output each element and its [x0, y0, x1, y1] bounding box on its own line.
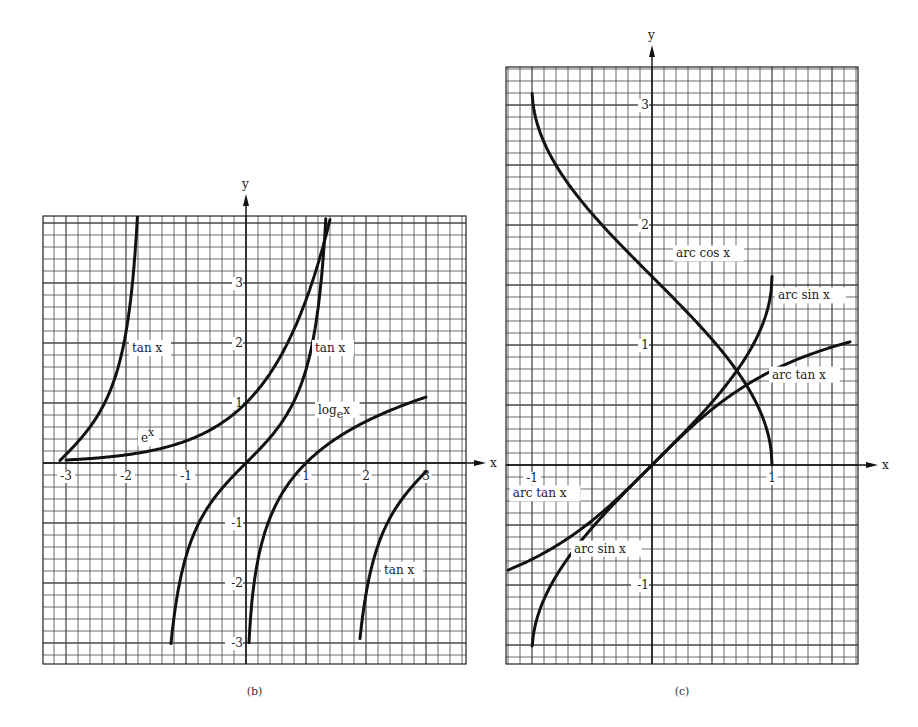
y-axis-label: y [241, 177, 249, 191]
x-axis-arrow-icon [474, 460, 486, 466]
curve-annotation: logex [318, 403, 350, 421]
x-tick-label: 1 [768, 471, 776, 485]
x-axis-arrow-icon [866, 462, 878, 468]
figure-caption: (c) [675, 685, 690, 698]
y-tick-label: 1 [641, 338, 649, 352]
curve-annotation: arc tan x [772, 368, 826, 382]
chart-c-inverse-trig: yx-11321-1arc cos xarc sin xarc tan xarc… [506, 28, 889, 698]
y-tick-label: -1 [637, 578, 649, 592]
curve-annotation: arc cos x [676, 246, 730, 260]
x-tick-label: -1 [180, 469, 192, 483]
x-tick-label: -3 [60, 469, 72, 483]
curve-tan-x [360, 472, 426, 639]
curve-annotation: tan x [132, 341, 163, 355]
curve-annotation: tan x [384, 563, 415, 577]
curve-annotation: tan x [315, 341, 346, 355]
figure-canvas: yx-3-2-1123321-1-2-3tan xtan xtan xexlog… [0, 0, 918, 727]
x-tick-label: -2 [120, 469, 132, 483]
y-tick-label: -1 [231, 516, 243, 530]
x-axis-label: x [882, 458, 889, 472]
y-tick-label: 2 [235, 336, 243, 350]
y-tick-label: -3 [231, 636, 243, 650]
x-axis-label: x [490, 456, 497, 470]
curve-log-e-x [249, 397, 426, 643]
y-tick-label: 3 [641, 98, 649, 112]
y-axis-arrow-icon [649, 45, 655, 57]
curves [60, 180, 426, 643]
y-tick-label: 2 [641, 218, 649, 232]
curve-annotation: arc sin x [574, 542, 626, 556]
x-tick-label: 2 [362, 469, 370, 483]
axes [506, 51, 872, 664]
y-tick-label: 3 [235, 276, 243, 290]
curve-tan-x [60, 180, 139, 460]
x-tick-label: -1 [526, 471, 538, 485]
x-tick-label: 1 [302, 469, 310, 483]
y-axis-arrow-icon [243, 194, 249, 206]
grid [43, 216, 466, 664]
y-tick-label: -2 [231, 576, 243, 590]
axes [43, 200, 480, 664]
curve-annotation: arc sin x [778, 288, 830, 302]
chart-b-tan-exp-log: yx-3-2-1123321-1-2-3tan xtan xtan xexlog… [43, 177, 497, 698]
curve-annotation: arc tan x [513, 486, 567, 500]
figure-caption: (b) [247, 685, 263, 698]
y-axis-label: y [647, 28, 655, 42]
